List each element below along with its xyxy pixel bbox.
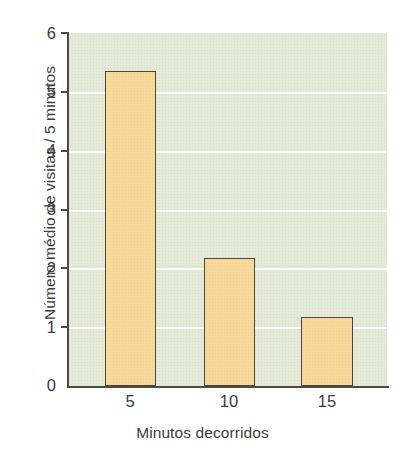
y-tick-label-5: 5: [16, 82, 56, 101]
x-tick-label-5: 5: [100, 392, 160, 411]
y-tick-label-3: 3: [16, 200, 56, 219]
y-tick-label-6: 6: [16, 24, 56, 43]
y-tick-label-0: 0: [16, 376, 56, 395]
y-tick-label-1: 1: [16, 318, 56, 337]
x-tick-label-15: 15: [297, 392, 357, 411]
x-tick-label-10: 10: [199, 392, 259, 411]
chart-figure: Número médio de visitas / 5 minutos 6 5 …: [0, 0, 405, 464]
y-tick-label-2: 2: [16, 259, 56, 278]
bar-15: [301, 317, 353, 386]
bar-5: [105, 71, 156, 386]
x-axis-line: [67, 386, 389, 388]
plot-area: [69, 33, 387, 386]
bar-10: [204, 258, 255, 386]
y-tick-label-4: 4: [16, 141, 56, 160]
x-axis-title: Minutos decorridos: [0, 424, 405, 442]
